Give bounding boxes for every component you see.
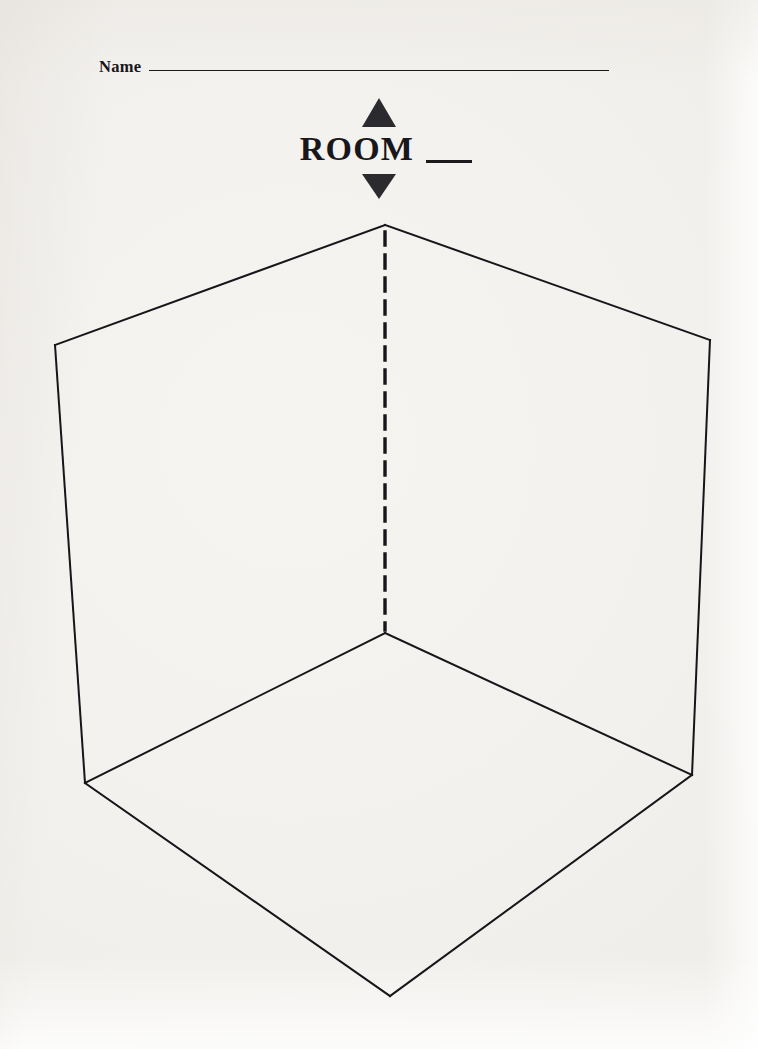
floor-front-right-edge (390, 775, 692, 996)
triangle-down-icon (362, 174, 396, 199)
right-wall-outer-edge (692, 340, 710, 775)
floor-left-baseboard (85, 633, 385, 783)
triangle-up-icon (362, 98, 396, 127)
name-field-label: Name (99, 57, 141, 77)
worksheet-page: Name ROOM (0, 0, 758, 1049)
room-title-row: ROOM (300, 132, 472, 166)
floor-right-baseboard (385, 633, 692, 775)
room-heading-block: ROOM (0, 98, 758, 199)
left-wall-outer-edge (55, 345, 85, 783)
room-number-blank-rule[interactable] (426, 160, 472, 163)
room-title: ROOM (300, 132, 414, 166)
name-field-row: Name (99, 57, 609, 77)
ceiling-right-edge (385, 225, 710, 340)
ceiling-left-edge (55, 225, 385, 345)
floor-front-left-edge (85, 783, 390, 996)
name-field-input-rule[interactable] (149, 70, 609, 71)
